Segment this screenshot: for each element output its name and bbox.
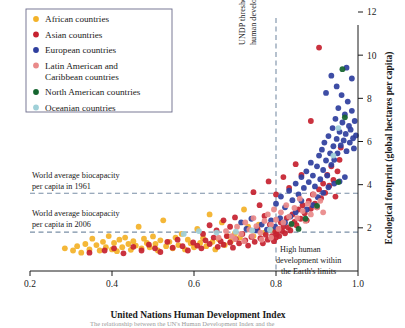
ecological-footprint-scatter-chart: 0.20.40.60.81.024681012 United Nations H… (0, 0, 405, 328)
data-point (70, 248, 76, 254)
data-point (276, 226, 282, 232)
data-point (122, 235, 128, 241)
data-point (335, 179, 341, 185)
data-point (301, 185, 307, 191)
data-point (232, 236, 238, 242)
data-point (314, 163, 320, 169)
legend-label: Asian countries (45, 30, 103, 40)
data-point (251, 189, 257, 195)
legend-swatch-latin-american (33, 63, 39, 69)
data-point (317, 198, 323, 204)
data-point (289, 221, 295, 227)
data-point (216, 235, 222, 241)
data-point (331, 153, 337, 159)
data-point (74, 243, 80, 249)
data-point (150, 234, 156, 240)
data-point (310, 173, 316, 179)
data-point (314, 203, 320, 209)
data-point (326, 133, 332, 139)
legend-item-african[interactable]: African countries (33, 14, 109, 24)
data-point (334, 84, 340, 90)
annotation-biocapacity-2006-line1: World average biocapacity (32, 209, 120, 218)
data-point (249, 233, 255, 239)
data-point (333, 116, 339, 122)
data-point (121, 250, 127, 256)
data-point (241, 238, 247, 244)
data-point (300, 208, 306, 214)
data-point (280, 174, 286, 180)
data-point (283, 202, 289, 208)
data-point (323, 90, 329, 96)
data-point (94, 242, 100, 248)
data-point (146, 242, 152, 248)
y-tick-label: 4 (367, 180, 372, 190)
data-point (290, 197, 296, 203)
data-point (271, 207, 277, 213)
data-point (232, 215, 238, 221)
data-point (282, 230, 288, 236)
data-point (303, 216, 309, 222)
data-point (317, 176, 323, 182)
data-point (308, 118, 314, 124)
legend-swatch-european (33, 47, 39, 53)
data-point (319, 147, 325, 153)
data-point (299, 174, 305, 180)
data-point (111, 240, 117, 246)
data-point (278, 194, 284, 200)
data-point (230, 245, 236, 251)
legend-label: Oceanian countries (45, 103, 116, 113)
data-point (293, 181, 299, 187)
data-point (349, 108, 355, 114)
legend-item-oceanian[interactable]: Oceanian countries (33, 103, 116, 113)
data-point (273, 217, 279, 223)
data-point (245, 243, 251, 249)
data-point (343, 131, 349, 137)
data-point (164, 239, 170, 245)
data-point (292, 205, 298, 211)
data-point (221, 242, 227, 248)
x-tick-label: 0.4 (106, 279, 118, 289)
data-point (181, 231, 187, 237)
data-point (312, 183, 318, 189)
data-point (308, 212, 314, 218)
x-tick-label: 0.6 (188, 279, 200, 289)
data-point (130, 244, 136, 250)
data-point (252, 239, 258, 245)
data-point (87, 250, 93, 256)
data-point (296, 226, 302, 232)
data-point (62, 245, 68, 251)
data-point (340, 66, 346, 72)
data-point (331, 143, 337, 149)
figure-caption: The relationship between the UN's Human … (90, 320, 274, 327)
data-point (207, 241, 213, 247)
legend-item-north-american[interactable]: North American countries (33, 87, 141, 97)
data-point (185, 248, 191, 254)
data-point (287, 228, 293, 234)
data-point (305, 201, 311, 207)
data-point (323, 158, 329, 164)
data-point (139, 248, 145, 254)
data-point (253, 223, 259, 229)
data-point (215, 244, 221, 250)
legend-swatch-african (33, 16, 39, 22)
data-point (242, 220, 248, 226)
legend-swatch-north-american (33, 89, 39, 95)
data-point (351, 146, 357, 152)
annotation-biocapacity-1961-line2: per capita in 1961 (32, 182, 91, 191)
data-point (335, 105, 341, 111)
data-point (337, 157, 343, 163)
data-point (152, 245, 158, 251)
data-point (175, 237, 181, 243)
data-point (280, 220, 286, 226)
legend: African countriesAsian countriesEuropean… (26, 9, 172, 113)
data-point (266, 179, 272, 185)
data-point (258, 230, 264, 236)
data-point (251, 215, 257, 221)
legend-item-european[interactable]: European countries (33, 45, 117, 55)
data-point (180, 243, 186, 249)
data-point (320, 167, 326, 173)
data-point (345, 99, 351, 105)
legend-label: African countries (45, 14, 109, 24)
legend-swatch-oceanian (33, 105, 39, 111)
legend-item-latin-american[interactable]: Latin American andCaribbean countries (33, 61, 119, 82)
